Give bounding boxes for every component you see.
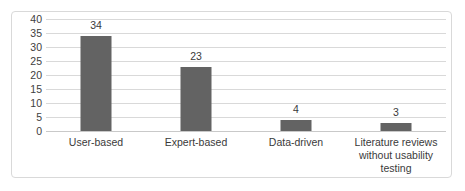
y-axis-tick-label: 35 [12,28,42,39]
x-axis-category-labels: User-basedExpert-basedData-drivenLiterat… [46,136,446,178]
bar[interactable] [281,120,312,131]
bar-group: 3 [346,19,446,131]
category-label-line: Expert-based [146,136,246,149]
bar-series: 342343 [46,19,446,131]
chart-frame: 4035302520151050 342343 User-basedExpert… [11,11,452,178]
bar[interactable] [381,123,412,131]
y-axis-tick-labels: 4035302520151050 [12,19,42,131]
x-axis-category-label: Literature reviewswithout usabilitytesti… [346,136,446,175]
y-axis-tick-label: 30 [12,42,42,53]
y-axis-tick-label: 15 [12,84,42,95]
bar[interactable] [181,67,212,131]
y-axis-tick-label: 5 [12,112,42,123]
plot-area: 342343 [46,19,446,131]
bar-value-label: 4 [293,104,299,115]
category-label-line: testing [346,162,446,175]
category-label-line: Data-driven [246,136,346,149]
y-axis-tick-label: 0 [12,126,42,137]
x-axis-category-label: Expert-based [146,136,246,149]
bar-group: 34 [46,19,146,131]
bar-value-label: 3 [393,107,399,118]
category-label-line: Literature reviews [346,136,446,149]
bar[interactable] [81,36,112,131]
bar-value-label: 34 [90,20,102,31]
category-label-line: without usability [346,149,446,162]
y-axis-tick-label: 25 [12,56,42,67]
x-axis-category-label: User-based [46,136,146,149]
x-axis-category-label: Data-driven [246,136,346,149]
category-label-line: User-based [46,136,146,149]
y-axis-tick-label: 40 [12,14,42,25]
gridline [46,131,446,132]
bar-value-label: 23 [190,51,202,62]
bar-group: 4 [246,19,346,131]
bar-group: 23 [146,19,246,131]
y-axis-tick-label: 10 [12,98,42,109]
y-axis-tick-label: 20 [12,70,42,81]
